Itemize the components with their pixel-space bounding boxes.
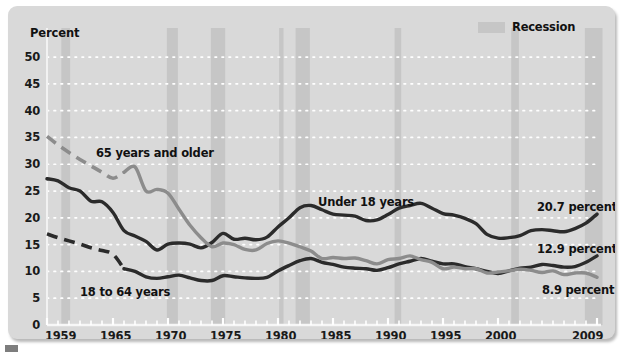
series-label-older: 65 years and older xyxy=(96,146,214,160)
x-tick-label-1980: 1980 xyxy=(265,329,296,339)
x-tick-label-1975: 1975 xyxy=(210,329,241,339)
y-axis-title: Percent xyxy=(30,26,80,40)
x-tick-label-1990: 1990 xyxy=(375,329,406,339)
poverty-rate-chart-figure: Percent 05101520253035404550 19591965197… xyxy=(0,0,623,355)
y-tick-label-50: 50 xyxy=(14,50,40,64)
y-tick-label-20: 20 xyxy=(14,211,40,225)
x-tick-label-1985: 1985 xyxy=(320,329,351,339)
y-tick-label-45: 45 xyxy=(14,77,40,91)
recession-legend-swatch xyxy=(478,22,505,33)
recession-band-1 xyxy=(167,28,178,325)
x-tick-label-1995: 1995 xyxy=(430,329,461,339)
footer-marker xyxy=(5,345,18,352)
y-tick-label-15: 15 xyxy=(14,238,40,252)
x-tick-label-2009: 2009 xyxy=(572,329,603,339)
series-label-working: 18 to 64 years xyxy=(80,285,170,299)
chart-panel: Percent 05101520253035404550 19591965197… xyxy=(8,6,615,339)
end-value-working: 12.9 percent xyxy=(537,242,615,256)
recession-bands-group xyxy=(61,28,602,325)
y-tick-label-40: 40 xyxy=(14,104,40,118)
series-label-children: Under 18 years xyxy=(318,195,414,209)
y-tick-label-35: 35 xyxy=(14,130,40,144)
recession-band-0 xyxy=(61,28,70,325)
recession-band-3 xyxy=(279,28,283,325)
end-value-children: 20.7 percent xyxy=(537,200,615,214)
y-tick-label-5: 5 xyxy=(14,291,40,305)
x-tick-label-2000: 2000 xyxy=(485,329,516,339)
y-tick-label-30: 30 xyxy=(14,157,40,171)
recession-legend: Recession xyxy=(478,20,575,34)
x-tick-label-1959: 1959 xyxy=(45,329,76,339)
recession-legend-label: Recession xyxy=(512,20,575,34)
y-tick-label-25: 25 xyxy=(14,184,40,198)
y-tick-label-10: 10 xyxy=(14,264,40,278)
x-tick-label-1965: 1965 xyxy=(100,329,131,339)
series-line-65-years-and-older xyxy=(124,166,597,277)
end-value-older: 8.9 percent xyxy=(542,283,614,297)
series-line-18-to-64-years-dashed xyxy=(47,234,124,269)
y-tick-label-0: 0 xyxy=(14,318,40,332)
recession-band-7 xyxy=(585,28,603,325)
x-tick-label-1970: 1970 xyxy=(155,329,186,339)
recession-band-6 xyxy=(511,28,519,325)
recession-band-4 xyxy=(296,28,310,325)
recession-band-5 xyxy=(395,28,402,325)
